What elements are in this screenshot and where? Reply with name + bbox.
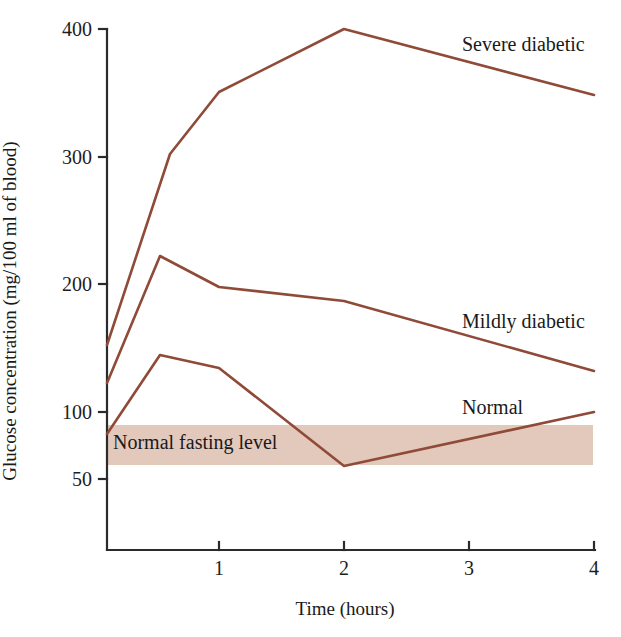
axes <box>99 29 595 550</box>
y-axis-title: Glucose concentration (mg/100 ml of bloo… <box>0 141 21 480</box>
x-tick-label-3: 3 <box>464 558 474 578</box>
y-tick-label-300: 300 <box>30 147 92 167</box>
x-tick-label-2: 2 <box>339 558 349 578</box>
x-axis-title: Time (hours) <box>295 598 394 620</box>
y-tick-label-50: 50 <box>30 469 92 489</box>
series-label-mildly-diabetic: Mildly diabetic <box>462 310 585 333</box>
y-tick-label-200: 200 <box>30 274 92 294</box>
glucose-tolerance-chart: 400 300 200 100 50 1 2 3 4 Time (hours) … <box>0 0 621 637</box>
x-tick-label-4: 4 <box>589 558 599 578</box>
y-tick-label-100: 100 <box>30 402 92 422</box>
series-label-normal: Normal <box>462 396 523 419</box>
series-line-severe-diabetic <box>107 29 594 345</box>
series-label-severe-diabetic: Severe diabetic <box>462 33 585 56</box>
x-tick-label-1: 1 <box>214 558 224 578</box>
normal-fasting-band-label: Normal fasting level <box>113 431 277 454</box>
y-tick-label-400: 400 <box>30 19 92 39</box>
